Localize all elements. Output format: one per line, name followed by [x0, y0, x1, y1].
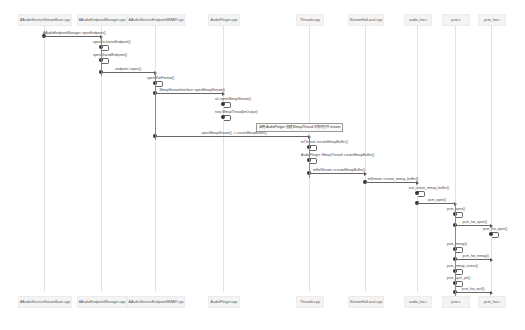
participant-box-bottom: AAudioEndpointManager.cpp: [77, 296, 127, 308]
self-call-arrow: [156, 81, 163, 87]
self-call-arrow: [310, 158, 317, 164]
lifeline: [223, 24, 224, 292]
participant-box-top: pcm.c: [442, 14, 470, 26]
message-label: pcm_open(): [428, 198, 446, 202]
arrowhead-icon: [364, 172, 367, 176]
participant-box-top: AAudioServiceEndpointMMAP.cpp: [127, 14, 184, 26]
activation-line: [155, 72, 156, 140]
message-arrow: [309, 173, 365, 174]
lifeline: [365, 24, 366, 292]
activation-line: [455, 203, 456, 296]
message-arrow: [417, 203, 455, 204]
message-label: out_create_mmap_buffer(): [409, 186, 449, 190]
message-label: pcm_open(): [447, 207, 465, 211]
self-call-arrow: [492, 232, 499, 238]
message-arrow: [455, 225, 491, 226]
self-call-arrow: [310, 145, 317, 151]
participant-box-bottom: pcm_hw.c: [478, 296, 506, 308]
message-label: openWithFormat(): [147, 76, 174, 80]
arrowhead-icon: [490, 258, 493, 262]
participant-box-top: Threads.cpp: [296, 14, 324, 26]
participant-box-bottom: AudioFlinger.cpp: [208, 296, 240, 308]
message-arrow: [455, 292, 491, 293]
message-label: AudioFlinger::MmapThread::createMmapBuff…: [301, 153, 374, 157]
self-call-arrow: [456, 247, 463, 253]
lifeline: [44, 24, 45, 292]
participant-box-top: AAudioEndpointManager.cpp: [77, 14, 127, 26]
lifeline: [417, 24, 418, 292]
message-arrow: [155, 136, 309, 137]
message-label: openSharedEndpoint(): [93, 53, 127, 57]
message-label: pcm_mmap_status(): [447, 264, 478, 268]
message-label: mHalStream->createMmapBuffer(): [313, 168, 365, 172]
self-call-arrow: [224, 102, 231, 108]
arrowhead-icon: [416, 181, 419, 185]
participant-box-bottom: pcm.c: [442, 296, 470, 308]
message-label: pcm_hw_mmap(): [463, 254, 489, 258]
arrowhead-icon: [222, 92, 225, 96]
participant-box-top: pcm_hw.c: [478, 14, 506, 26]
message-label: af->openMmapStream(): [215, 97, 251, 101]
participant-box-top: StreamHalLocal.cpp: [348, 14, 384, 26]
lifeline: [491, 24, 492, 292]
self-call-arrow: [102, 58, 109, 64]
message-arrow: [44, 36, 101, 37]
message-label: pcm_mmap(): [447, 242, 467, 246]
message-arrow: [365, 182, 417, 183]
note-box: 调用 AudioFlinger 创建 MmapThread 对象并打开 stre…: [256, 123, 343, 132]
participant-box-bottom: AAudioServiceStreamBase.cpp: [18, 296, 71, 308]
self-call-arrow: [456, 212, 463, 218]
activation-line: [309, 136, 310, 178]
self-call-arrow: [418, 191, 425, 197]
message-label: pcm_hw_open(): [483, 227, 507, 231]
participant-box-top: AudioFlinger.cpp: [208, 14, 240, 26]
participant-box-bottom: Threads.cpp: [296, 296, 324, 308]
self-call-arrow: [102, 45, 109, 51]
message-label: new MmapThread(mOutput): [215, 110, 258, 114]
participant-box-bottom: AAudioServiceEndpointMMAP.cpp: [127, 296, 184, 308]
message-label: pcm_sync_ptr(): [447, 276, 470, 280]
activation-line: [101, 36, 102, 76]
participant-box-top: audio_hw.c: [404, 14, 432, 26]
message-label: pcm_hw_ioctl(): [462, 287, 485, 291]
message-arrow: [455, 259, 491, 260]
message-label: AAudioEndpointManager::openEndpoint(): [43, 31, 106, 35]
self-call-arrow: [224, 115, 231, 121]
message-label: mStream->create_mmap_buffer(): [368, 177, 418, 181]
participant-box-bottom: StreamHalLocal.cpp: [348, 296, 384, 308]
message-label: endpoint->open(): [115, 67, 141, 71]
message-arrow: [155, 93, 223, 94]
participant-box-bottom: audio_hw.c: [404, 296, 432, 308]
self-call-arrow: [456, 269, 463, 275]
lifeline: [155, 24, 156, 292]
message-label: MmapStreamInterface::openMmapStream(): [159, 88, 225, 92]
participant-box-top: AAudioServiceStreamBase.cpp: [18, 14, 71, 26]
message-arrow: [101, 72, 155, 73]
message-label: openExclusiveEndpoint(): [93, 40, 131, 44]
message-label: mThread->createMmapBuffer(): [301, 140, 348, 144]
message-label: pcm_hw_open(): [463, 220, 487, 224]
arrowhead-icon: [490, 291, 493, 295]
